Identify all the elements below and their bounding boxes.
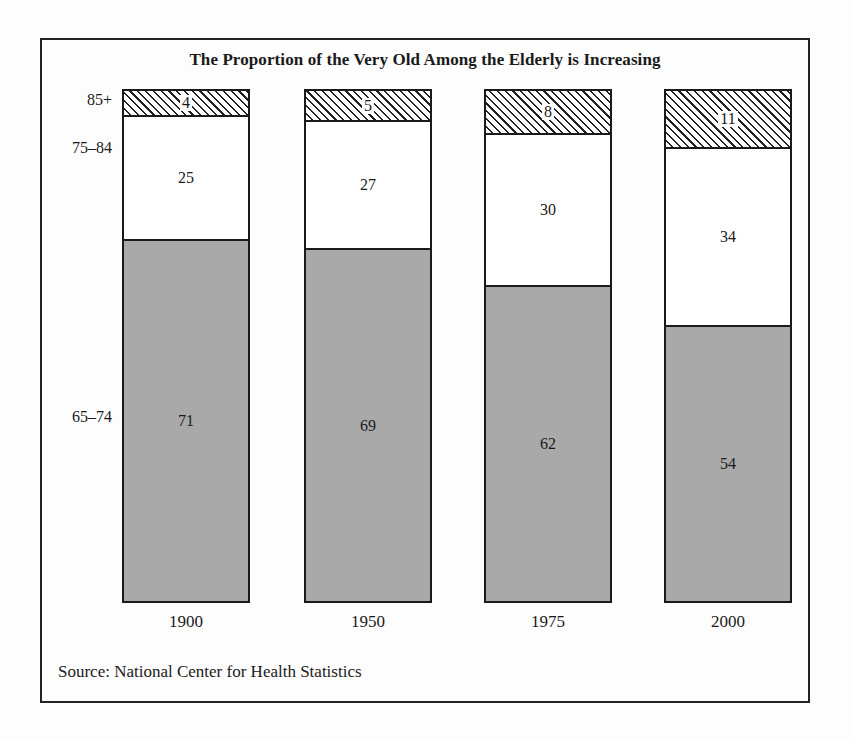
chart-title: The Proportion of the Very Old Among the… xyxy=(0,50,850,70)
year-label-1975: 1975 xyxy=(484,612,612,632)
segment-65-74: 62 xyxy=(486,285,610,601)
segment-value: 8 xyxy=(542,104,554,120)
year-label-1900: 1900 xyxy=(122,612,250,632)
segment-75-84: 30 xyxy=(486,133,610,285)
segment-value: 71 xyxy=(178,412,194,430)
segment-value: 54 xyxy=(720,455,736,473)
source-note: Source: National Center for Health Stati… xyxy=(58,662,362,682)
row-label-85-plus: 85+ xyxy=(52,91,112,109)
segment-value: 62 xyxy=(540,435,556,453)
bar-1900: 4 25 71 xyxy=(122,89,250,603)
segment-85-plus: 4 xyxy=(124,91,248,115)
segment-value: 30 xyxy=(540,201,556,219)
year-label-1950: 1950 xyxy=(304,612,432,632)
row-label-65-74: 65–74 xyxy=(52,408,112,426)
segment-65-74: 54 xyxy=(666,325,790,601)
row-label-75-84: 75–84 xyxy=(52,139,112,157)
segment-value: 4 xyxy=(180,95,192,111)
bar-1975: 8 30 62 xyxy=(484,89,612,603)
segment-75-84: 34 xyxy=(666,147,790,325)
segment-value: 5 xyxy=(362,98,374,114)
segment-value: 25 xyxy=(178,169,194,187)
segment-75-84: 25 xyxy=(124,115,248,239)
bar-2000: 11 34 54 xyxy=(664,89,792,603)
segment-value: 27 xyxy=(360,176,376,194)
segment-85-plus: 8 xyxy=(486,91,610,133)
segment-65-74: 69 xyxy=(306,248,430,601)
segment-value: 11 xyxy=(718,111,737,127)
segment-85-plus: 5 xyxy=(306,91,430,120)
segment-value: 69 xyxy=(360,417,376,435)
segment-65-74: 71 xyxy=(124,239,248,601)
segment-75-84: 27 xyxy=(306,120,430,248)
segment-85-plus: 11 xyxy=(666,91,790,147)
segment-value: 34 xyxy=(720,228,736,246)
bar-1950: 5 27 69 xyxy=(304,89,432,603)
year-label-2000: 2000 xyxy=(664,612,792,632)
